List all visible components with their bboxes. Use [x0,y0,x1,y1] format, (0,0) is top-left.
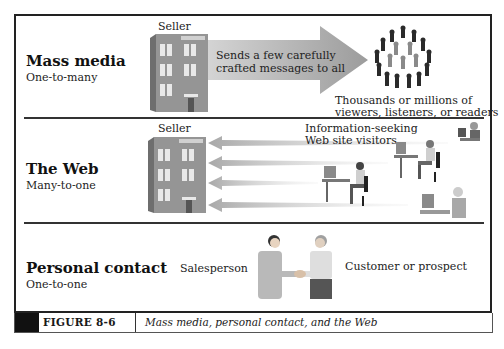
web-subtitle: Many-to-one [26,179,96,192]
caption-marker [15,313,39,332]
salesperson-label: Salesperson [180,262,248,275]
figure-number: FIGURE 8-6 [43,316,116,328]
computer-user-icon [456,122,484,148]
row-divider [24,222,484,224]
handshake-icon [254,233,338,301]
arrow-text-line2: crafted messages to all [216,63,345,75]
customer-label: Customer or prospect [345,260,467,273]
visitors-line2: Web site visitors [305,134,397,147]
figure-caption: Mass media, personal contact, and the We… [145,316,377,328]
seller-label: Seller [158,20,191,33]
mass-media-title: Mass media [26,52,126,70]
computer-user-icon [420,186,472,220]
personal-contact-title: Personal contact [26,259,167,277]
personal-contact-subtitle: One-to-one [26,278,87,291]
web-title: The Web [26,160,99,178]
mass-media-subtitle: One-to-many [26,71,97,84]
audience-line2: viewers, listeners, or readers [335,106,498,119]
crowd-icon [370,24,436,88]
figure-caption-bar: FIGURE 8-6 Mass media, personal contact,… [14,313,493,333]
caption-separator [135,313,136,332]
arrow-text-line1: Sends a few carefully [216,50,336,62]
seller-label: Seller [158,122,191,135]
computer-user-icon [394,140,446,184]
building-icon [146,137,208,215]
building-icon [148,34,210,114]
computer-user-icon [318,162,378,210]
